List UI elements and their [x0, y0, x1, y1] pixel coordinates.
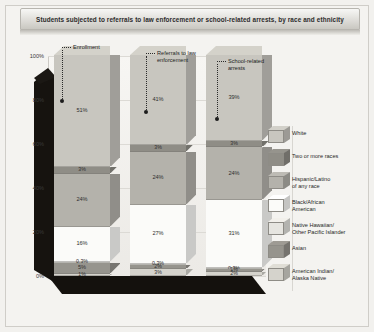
segment-value-label: 31% — [228, 231, 239, 237]
segment-2-6[interactable]: 2% — [206, 272, 262, 276]
callout-anchor-dot — [60, 99, 64, 103]
legend-label: White — [292, 126, 306, 137]
segment-1-2[interactable]: 24% — [130, 152, 186, 205]
legend-label: Hispanic/Latinoof any race — [292, 172, 330, 190]
legend-label-line2: Other Pacific Islander — [292, 229, 345, 236]
segment-value-label: 16% — [76, 241, 87, 247]
swatch-front-face — [268, 199, 284, 212]
swatch-front-face — [268, 268, 284, 281]
swatch-front-face — [268, 222, 284, 235]
legend-swatch-icon — [268, 195, 292, 212]
segment-0-3[interactable]: 16% — [54, 227, 110, 262]
segment-value-label: 3% — [154, 145, 162, 150]
segment-0-1[interactable]: 3% — [54, 167, 110, 174]
legend: WhiteTwo or more racesHispanic/Latinoof … — [268, 126, 364, 287]
legend-swatch-icon — [268, 241, 292, 258]
segment-side-face — [110, 55, 120, 166]
callout-arrests: School-relatedarrests — [228, 58, 264, 72]
segment-value-label: 24% — [152, 175, 163, 181]
segment-2-1[interactable]: 3% — [206, 141, 262, 148]
segment-value-label: 3% — [154, 270, 162, 275]
callout-leader-horizontal — [62, 47, 71, 48]
y-axis-tick-3: 40% — [14, 185, 44, 191]
segment-side-face — [186, 55, 196, 144]
segment-value-label: 39% — [228, 95, 239, 101]
callout-label-line2: arrests — [228, 65, 264, 72]
legend-item-3[interactable]: Black/AfricanAmerican — [268, 195, 364, 218]
segment-side-face — [186, 205, 196, 263]
swatch-front-face — [268, 153, 284, 166]
chart-page: Students subjected to referrals to law e… — [0, 0, 374, 332]
callout-label-line1: Referrals to law — [157, 50, 196, 57]
segment-0-2[interactable]: 24% — [54, 174, 110, 227]
chart-title-bar: Students subjected to referrals to law e… — [20, 8, 360, 30]
y-axis-tick-4: 20% — [14, 229, 44, 235]
segment-value-label: 51% — [76, 108, 87, 114]
legend-label-line2: of any race — [292, 183, 330, 190]
segment-value-label: 3% — [230, 141, 238, 146]
legend-label: Asian — [292, 241, 306, 252]
legend-label-line1: American Indian/ — [292, 268, 334, 275]
legend-swatch-icon — [268, 126, 292, 143]
legend-label-line1: Black/African — [292, 199, 325, 206]
callout-label-line1: School-related — [228, 58, 264, 65]
callout-enrollment: Enrollment — [73, 44, 100, 51]
title-shadow — [20, 30, 360, 35]
legend-item-1[interactable]: Two or more races — [268, 149, 364, 172]
y-axis-tick-0: 100% — [14, 53, 44, 59]
callout-label-line2: enforcement — [157, 57, 196, 64]
segment-value-label: 41% — [152, 97, 163, 103]
callout-label: Enrollment — [73, 44, 100, 51]
legend-label: American Indian/Alaska Native — [292, 264, 334, 282]
legend-item-0[interactable]: White — [268, 126, 364, 149]
y-axis-tick-5: 0% — [14, 273, 44, 279]
callout-leader-line — [217, 64, 218, 119]
segment-value-label: 24% — [76, 197, 87, 203]
legend-label: Two or more races — [292, 149, 338, 160]
plot-area: 100%80%60%40%20%0% 51%3%24%16%0.3%5%1%41… — [14, 38, 266, 310]
swatch-front-face — [268, 130, 284, 143]
column-1[interactable]: 41%3%24%27%0.3%2%3% — [130, 55, 186, 276]
segment-value-label: 3% — [78, 167, 86, 172]
legend-label: Native Hawaiian/Other Pacific Islander — [292, 218, 345, 236]
column-2[interactable]: 39%3%24%31%0.3%1%2% — [206, 55, 262, 276]
segment-value-label: 1% — [78, 272, 86, 277]
chart-floor — [48, 276, 266, 298]
segment-1-6[interactable]: 3% — [130, 269, 186, 276]
legend-item-4[interactable]: Native Hawaiian/Other Pacific Islander — [268, 218, 364, 241]
segment-value-label: 2% — [230, 271, 238, 276]
legend-item-5[interactable]: Asian — [268, 241, 364, 264]
segment-2-2[interactable]: 24% — [206, 147, 262, 200]
legend-item-6[interactable]: American Indian/Alaska Native — [268, 264, 364, 287]
callout-anchor-dot — [144, 110, 148, 114]
segment-1-1[interactable]: 3% — [130, 145, 186, 152]
legend-swatch-icon — [268, 218, 292, 235]
callout-leader-horizontal — [146, 53, 155, 54]
y-axis-tick-1: 80% — [14, 97, 44, 103]
swatch-front-face — [268, 245, 284, 258]
segment-0-6[interactable]: 1% — [54, 274, 110, 276]
legend-item-2[interactable]: Hispanic/Latinoof any race — [268, 172, 364, 195]
legend-swatch-icon — [268, 172, 292, 189]
page-title: Students subjected to referrals to law e… — [36, 16, 344, 23]
legend-label-line2: American — [292, 206, 325, 213]
callout-leader-horizontal — [217, 61, 226, 62]
callout-anchor-dot — [215, 117, 219, 121]
segment-side-face — [186, 152, 196, 204]
callout-leader-line — [62, 50, 63, 101]
legend-swatch-icon — [268, 149, 292, 166]
segment-value-label: 27% — [152, 231, 163, 237]
legend-label-line2: Alaska Native — [292, 275, 334, 282]
legend-label-line1: Hispanic/Latino — [292, 176, 330, 183]
legend-swatch-icon — [268, 264, 292, 281]
segment-1-3[interactable]: 27% — [130, 205, 186, 264]
segment-side-face — [110, 174, 120, 226]
swatch-front-face — [268, 176, 284, 189]
legend-label-line1: Native Hawaiian/ — [292, 222, 345, 229]
segment-value-label: 24% — [228, 171, 239, 177]
y-axis-tick-2: 60% — [14, 141, 44, 147]
segment-2-3[interactable]: 31% — [206, 200, 262, 268]
segment-1-0[interactable]: 41% — [130, 55, 186, 145]
segment-value-label: 5% — [78, 265, 86, 271]
legend-label: Black/AfricanAmerican — [292, 195, 325, 213]
